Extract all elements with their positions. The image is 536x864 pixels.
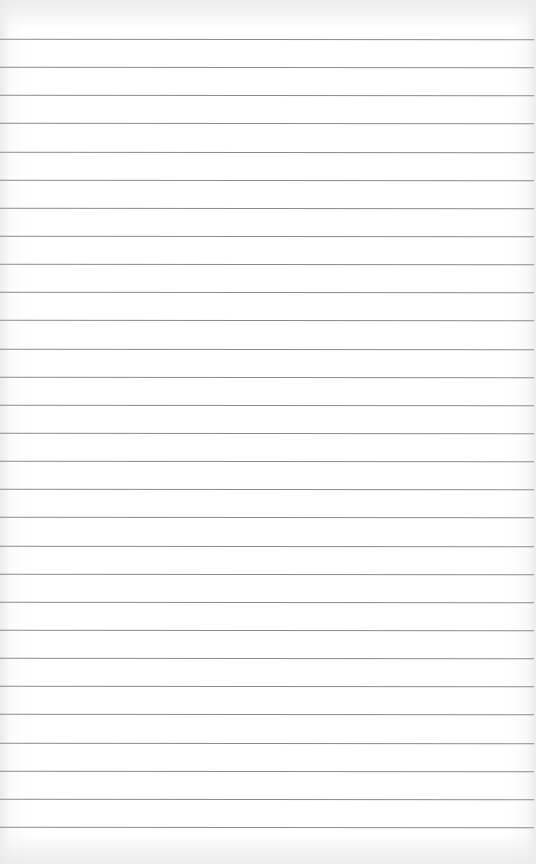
- ruled-line: [0, 827, 534, 829]
- ruled-line: [0, 546, 534, 548]
- ruled-line: [0, 461, 534, 463]
- ruled-line: [0, 517, 534, 519]
- ruled-line: [0, 264, 534, 266]
- ruled-line: [0, 208, 534, 210]
- ruled-line: [0, 433, 534, 435]
- ruled-line: [0, 180, 534, 182]
- ruled-line: [0, 686, 534, 688]
- ruled-line: [0, 292, 534, 294]
- ruled-line: [0, 602, 534, 604]
- ruled-line: [0, 123, 534, 125]
- ruled-line: [0, 658, 534, 660]
- ruled-line: [0, 630, 534, 632]
- ruled-line: [0, 320, 534, 322]
- ruled-line: [0, 39, 534, 41]
- ruled-line: [0, 771, 534, 773]
- ruled-line: [0, 152, 534, 154]
- lined-paper: [0, 0, 536, 864]
- ruled-line: [0, 236, 534, 238]
- ruled-line: [0, 405, 534, 407]
- ruled-line: [0, 349, 534, 351]
- ruled-line: [0, 799, 534, 801]
- ruled-line: [0, 67, 534, 69]
- ruled-line: [0, 574, 534, 576]
- ruled-line: [0, 377, 534, 379]
- ruled-line: [0, 743, 534, 745]
- ruled-line: [0, 95, 534, 97]
- ruled-line: [0, 714, 534, 716]
- ruled-line: [0, 489, 534, 491]
